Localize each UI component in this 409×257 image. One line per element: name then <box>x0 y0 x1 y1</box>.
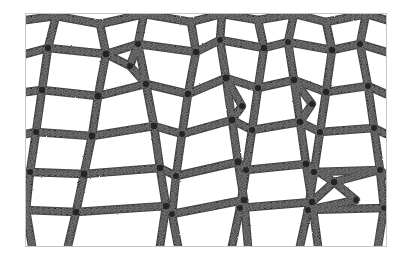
screenshot-root: Black-and-white micrograph of an open-ce… <box>0 0 409 257</box>
micrograph-figure <box>25 13 387 247</box>
foam-structure-image <box>26 14 386 246</box>
